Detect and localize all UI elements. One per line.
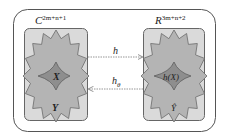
arrow-h-label: h [113,45,118,56]
inner-set-x-label: X [52,71,60,82]
diagram-canvas: C2m+n+1 R3m+n+2 h hθ X Y h(X) Ŷ [0,0,227,137]
outer-set-y-label: Y [52,102,59,113]
inner-set-hx-label: h(X) [163,72,179,82]
